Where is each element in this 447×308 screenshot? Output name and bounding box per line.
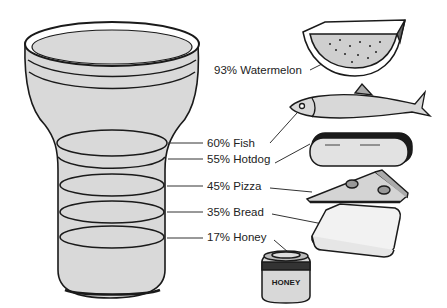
label-fish: 60% Fish	[207, 137, 255, 150]
label-watermelon: 93% Watermelon	[214, 64, 302, 77]
fish-icon	[290, 84, 430, 118]
watermelon-slice-icon	[303, 20, 405, 76]
pizza-slice-icon	[307, 170, 408, 202]
glass-icon	[25, 22, 199, 298]
label-honey: 17% Honey	[207, 231, 266, 244]
honey-jar-icon: HONEY	[262, 251, 310, 303]
honey-jar-label: HONEY	[272, 278, 301, 287]
label-hotdog: 55% Hotdog	[207, 153, 270, 166]
label-bread: 35% Bread	[207, 206, 264, 219]
hotdog-icon	[310, 133, 412, 166]
bread-slice-icon	[312, 204, 401, 257]
label-pizza: 45% Pizza	[207, 180, 261, 193]
water-content-diagram: HONEY 93% Watermelon 60% Fish 55% Hotdog…	[0, 0, 447, 308]
